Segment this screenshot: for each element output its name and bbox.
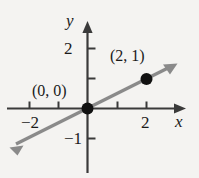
line-arrowhead-lower-left bbox=[10, 146, 24, 156]
x-tick-label-2: 2 bbox=[141, 114, 150, 131]
y-axis-ticks bbox=[88, 49, 96, 139]
point-origin bbox=[82, 103, 94, 115]
coordinate-plane-figure: y x 2 −1 −2 2 (0, 0) (2, 1) bbox=[0, 0, 199, 178]
y-axis-label: y bbox=[66, 12, 74, 29]
graph-canvas bbox=[0, 0, 199, 178]
point-annotation-origin: (0, 0) bbox=[32, 83, 67, 99]
y-axis-arrowhead bbox=[82, 21, 92, 33]
point-annotation-2-1: (2, 1) bbox=[110, 48, 145, 64]
x-axis-label: x bbox=[175, 113, 183, 130]
y-axis bbox=[82, 21, 92, 173]
x-tick-label--2: −2 bbox=[21, 114, 39, 131]
point-2-1 bbox=[141, 73, 153, 85]
y-tick-label--1: −1 bbox=[64, 130, 82, 147]
y-tick-label-2: 2 bbox=[64, 40, 73, 57]
